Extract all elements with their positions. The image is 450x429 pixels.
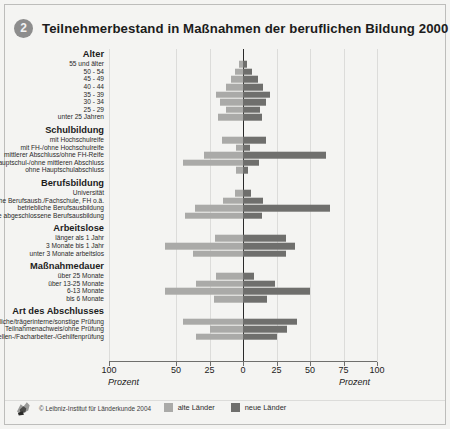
chart-row: 25 - 29 <box>109 106 377 114</box>
bar-alte-laender <box>220 99 243 106</box>
chart-row: außerbetriebliche Berufsausb./Fachschule… <box>109 197 377 205</box>
chart-row: 6-13 Monate <box>109 288 377 296</box>
bar-alte-laender <box>183 318 243 325</box>
chart-row: staatliche/trägerinterne/sonstige Prüfun… <box>109 318 377 326</box>
bar-neue-laender <box>243 160 259 167</box>
x-axis-unit-right: Prozent <box>339 377 370 387</box>
category-label: ohne Hauptschulabschluss <box>25 167 104 174</box>
category-label: mit Hauptschul-/ohne mittleren Abschluss <box>0 160 104 167</box>
chart-group-5: Art des Abschlussesstaatliche/trägerinte… <box>109 306 377 340</box>
bar-neue-laender <box>243 334 277 341</box>
x-axis-unit-left: Prozent <box>108 377 139 387</box>
chart-group-1: Schulbildungmit Hochschulreifemit FH-/oh… <box>109 125 377 175</box>
chart-row: mittlerer Abschluss/ohne FH-Reife <box>109 151 377 159</box>
group-title: Schulbildung <box>45 125 104 135</box>
category-label: staatliche/trägerinterne/sonstige Prüfun… <box>0 318 104 325</box>
category-label: 6-13 Monate <box>67 288 104 295</box>
category-label: ohne abgeschlossene Berufsausbildung <box>0 213 104 220</box>
bar-alte-laender <box>216 91 243 98</box>
chart-row: ohne abgeschlossene Berufsausbildung <box>109 212 377 220</box>
bar-alte-laender <box>165 243 243 250</box>
bar-neue-laender <box>243 107 260 114</box>
chart-row: 30 - 34 <box>109 99 377 107</box>
bar-neue-laender <box>243 144 250 151</box>
bar-alte-laender <box>195 205 243 212</box>
group-title: Alter <box>83 49 104 59</box>
chart-row: mit Hochschulreife <box>109 136 377 144</box>
chart-plot-area: Alter55 und älter50 - 5445 - 4940 - 4435… <box>109 49 377 362</box>
bar-neue-laender <box>243 296 267 303</box>
bar-neue-laender <box>243 152 326 159</box>
bar-alte-laender <box>216 273 243 280</box>
chart-row: 50 - 54 <box>109 68 377 76</box>
category-label: betriebliche Berufsausbildung <box>17 205 104 212</box>
bar-neue-laender <box>243 250 286 257</box>
bar-neue-laender <box>243 213 262 220</box>
category-label: 40 - 44 <box>83 84 104 91</box>
legend-item-1: neue Länder <box>231 403 287 412</box>
chart-group-0: Alter55 und älter50 - 5445 - 4940 - 4435… <box>109 49 377 121</box>
bar-alte-laender <box>204 152 243 159</box>
axis-tick-label: 100 <box>101 365 116 375</box>
chart-row: länger als 1 Jahr <box>109 235 377 243</box>
chart-row: 55 und älter <box>109 61 377 69</box>
category-label: Universität <box>73 190 104 197</box>
bar-alte-laender <box>196 334 243 341</box>
group-title: Berufsbildung <box>41 178 104 188</box>
bar-alte-laender <box>214 296 243 303</box>
copyright-text: © Leibniz-Institut für Länderkunde 2004 <box>39 405 151 412</box>
category-label: länger als 1 Jahr <box>55 235 104 242</box>
chart-footer: © Leibniz-Institut für Länderkunde 2004 <box>14 400 151 417</box>
category-label: mit Hochschulreife <box>50 137 104 144</box>
chart-row: unter 25 Jahren <box>109 114 377 122</box>
chart-row: Gesellen-/Facharbeiter-/Gehilfenprüfung <box>109 333 377 341</box>
legend-swatch <box>164 403 173 412</box>
chart-group-3: Arbeitsloselänger als 1 Jahr3 Monate bis… <box>109 223 377 257</box>
chart-row: bis 6 Monate <box>109 295 377 303</box>
axis-tick-label: 50 <box>171 365 181 375</box>
chart-row: über 13-25 Monate <box>109 280 377 288</box>
bar-neue-laender <box>243 114 262 121</box>
chart-row: mit FH-/ohne Hochschulreife <box>109 144 377 152</box>
group-title: Maßnahmedauer <box>30 261 104 271</box>
figure-container: 2 Teilnehmerbestand in Maßnahmen der ber… <box>0 0 450 429</box>
category-label: 25 - 29 <box>83 107 104 114</box>
bar-neue-laender <box>243 61 247 68</box>
chart-row: betriebliche Berufsausbildung <box>109 204 377 212</box>
bar-neue-laender <box>243 99 266 106</box>
category-label: 50 - 54 <box>83 69 104 76</box>
category-label: Gesellen-/Facharbeiter-/Gehilfenprüfung <box>0 334 104 341</box>
bar-alte-laender <box>223 197 243 204</box>
bar-alte-laender <box>235 69 243 76</box>
bar-neue-laender <box>243 273 254 280</box>
bar-alte-laender <box>210 326 244 333</box>
chart-group-4: Maßnahmedauerüber 25 Monateüber 13-25 Mo… <box>109 261 377 303</box>
bar-alte-laender <box>193 250 243 257</box>
bar-alte-laender <box>196 281 243 288</box>
category-label: 55 und älter <box>69 61 104 68</box>
bar-neue-laender <box>243 167 248 174</box>
category-label: über 25 Monate <box>58 273 104 280</box>
bar-neue-laender <box>243 288 310 295</box>
gridline-100 <box>377 49 378 362</box>
bar-alte-laender <box>226 84 243 91</box>
page-title: Teilnehmerbestand in Maßnahmen der beruf… <box>42 21 448 36</box>
bar-alte-laender <box>183 160 243 167</box>
bar-alte-laender <box>236 144 243 151</box>
chart-row: ohne Hauptschulabschluss <box>109 167 377 175</box>
axis-tick-label: 100 <box>369 365 384 375</box>
bar-alte-laender <box>218 114 243 121</box>
bar-neue-laender <box>243 76 258 83</box>
leibniz-institut-logo <box>14 400 33 417</box>
chart-row: Universität <box>109 189 377 197</box>
category-label: 35 - 39 <box>83 91 104 98</box>
axis-tick-label: 0 <box>240 365 245 375</box>
axis-tick-label: 75 <box>338 365 348 375</box>
legend-item-0: alte Länder <box>164 403 215 412</box>
legend-swatch <box>231 403 240 412</box>
legend-label: alte Länder <box>178 403 215 412</box>
category-label: 3 Monate bis 1 Jahr <box>46 243 104 250</box>
category-label: außerbetriebliche Berufsausb./Fachschule… <box>0 197 104 204</box>
bar-alte-laender <box>231 76 243 83</box>
chart-row: 45 - 49 <box>109 76 377 84</box>
